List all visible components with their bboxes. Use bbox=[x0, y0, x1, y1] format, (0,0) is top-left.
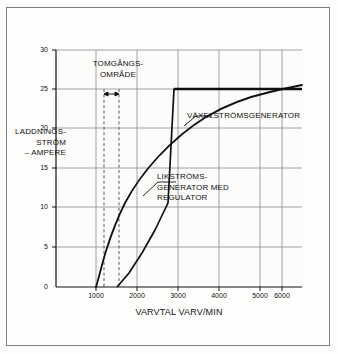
y-tick-25: 25 bbox=[34, 85, 48, 92]
x-axis-title: VARVTAL VARV/MIN bbox=[56, 307, 302, 317]
idle-range-label: TOMGÅNGS- OMRÅDE bbox=[78, 59, 158, 80]
dc-generator-label-line1: LIKSTRÖMS- bbox=[157, 172, 229, 183]
x-tick-3000: 3000 bbox=[165, 292, 191, 299]
y-axis-title-line2: STRÖM bbox=[4, 138, 66, 149]
y-tick-30: 30 bbox=[34, 46, 48, 53]
plot-background bbox=[56, 50, 302, 287]
y-tick-10: 10 bbox=[34, 203, 48, 210]
x-tick-6000: 6000 bbox=[269, 292, 295, 299]
y-axis-title-line3: – AMPERE bbox=[4, 148, 66, 159]
alternator-label: VÄXELSTRÖMSGENERATOR bbox=[187, 111, 300, 120]
y-tick-0: 0 bbox=[34, 283, 48, 290]
idle-range-label-line1: TOMGÅNGS- bbox=[78, 59, 158, 70]
y-axis-title-line1: LADDNINGS- bbox=[4, 127, 66, 138]
x-tick-1000: 1000 bbox=[83, 292, 109, 299]
x-tick-4000: 4000 bbox=[206, 292, 232, 299]
dc-generator-label: LIKSTRÖMS- GENERATOR MED REGULATOR bbox=[157, 172, 229, 204]
y-tick-5: 5 bbox=[34, 243, 48, 250]
x-tick-2000: 2000 bbox=[124, 292, 150, 299]
dc-generator-label-line2: GENERATOR MED bbox=[157, 183, 229, 194]
y-axis-title: LADDNINGS- STRÖM – AMPERE bbox=[4, 127, 66, 159]
idle-range-label-line2: OMRÅDE bbox=[78, 70, 158, 81]
dc-generator-label-line3: REGULATOR bbox=[157, 193, 229, 204]
y-tick-15: 15 bbox=[34, 164, 48, 171]
figure-container: 30 25 20 15 10 5 0 1000 2000 3000 4000 5… bbox=[0, 0, 338, 354]
